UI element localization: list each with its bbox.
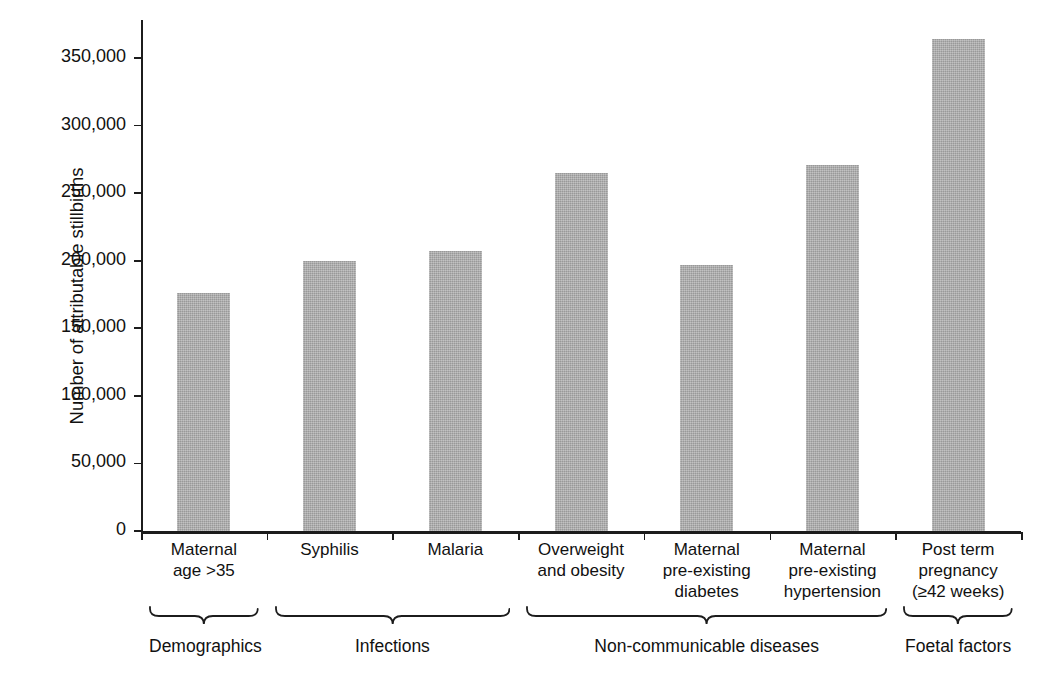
bar xyxy=(429,251,482,531)
category-label-line: Syphilis xyxy=(267,539,393,560)
y-axis-tick-mark xyxy=(134,192,141,194)
y-axis-tick-label: 250,000 xyxy=(13,181,126,202)
x-axis-category-label: Maternalpre-existingdiabetes xyxy=(644,539,770,602)
x-axis-tick-mark xyxy=(1021,532,1023,540)
category-label-line: Maternal xyxy=(770,539,896,560)
bar xyxy=(932,39,985,531)
y-axis-tick-mark xyxy=(134,463,141,465)
category-label-line: Maternal xyxy=(644,539,770,560)
x-axis-category-label: Maternalage >35 xyxy=(141,539,267,581)
category-label-line: Post term xyxy=(895,539,1021,560)
bar-chart-figure: Number of attributable stillbirths 050,0… xyxy=(0,0,1045,693)
x-axis-line xyxy=(141,531,1021,534)
group-label: Foetal factors xyxy=(903,636,1013,657)
y-axis-tick-label: 350,000 xyxy=(13,46,126,67)
category-label-line: (≥42 weeks) xyxy=(895,581,1021,602)
group-brace xyxy=(903,606,1013,628)
y-axis-tick-label: 150,000 xyxy=(13,316,126,337)
group-label: Demographics xyxy=(149,636,259,657)
group-brace xyxy=(149,606,259,628)
x-axis-category-label: Syphilis xyxy=(267,539,393,560)
y-axis-line xyxy=(141,20,143,533)
category-label-line: Overweight xyxy=(518,539,644,560)
category-label-line: pre-existing xyxy=(644,560,770,581)
group-label: Non-communicable diseases xyxy=(526,636,887,657)
x-axis-category-label: Maternalpre-existinghypertension xyxy=(770,539,896,602)
y-axis-title: Number of attributable stillbirths xyxy=(66,86,88,506)
bar xyxy=(806,165,859,531)
category-label-line: pregnancy xyxy=(895,560,1021,581)
y-axis-tick-mark xyxy=(134,395,141,397)
y-axis-tick-label: 0 xyxy=(13,519,126,540)
group-label: Infections xyxy=(275,636,510,657)
bar xyxy=(680,265,733,531)
category-label-line: Malaria xyxy=(392,539,518,560)
group-brace xyxy=(526,606,887,628)
category-label-line: diabetes xyxy=(644,581,770,602)
category-label-line: hypertension xyxy=(770,581,896,602)
category-label-line: Maternal xyxy=(141,539,267,560)
group-brace xyxy=(275,606,510,628)
y-axis-tick-label: 300,000 xyxy=(13,114,126,135)
x-axis-category-label: Post termpregnancy(≥42 weeks) xyxy=(895,539,1021,602)
y-axis-tick-mark xyxy=(134,327,141,329)
y-axis-tick-label: 100,000 xyxy=(13,384,126,405)
category-label-line: pre-existing xyxy=(770,560,896,581)
category-label-line: age >35 xyxy=(141,560,267,581)
x-axis-category-label: Overweightand obesity xyxy=(518,539,644,581)
bar xyxy=(303,261,356,531)
y-axis-tick-label: 50,000 xyxy=(13,451,126,472)
x-axis-category-label: Malaria xyxy=(392,539,518,560)
y-axis-tick-mark xyxy=(134,530,141,532)
bar xyxy=(555,173,608,531)
y-axis-tick-mark xyxy=(134,260,141,262)
bar xyxy=(177,293,230,531)
plot-area: 050,000100,000150,000200,000250,000300,0… xyxy=(141,20,1021,533)
y-axis-tick-mark xyxy=(134,125,141,127)
y-axis-tick-mark xyxy=(134,57,141,59)
y-axis-tick-label: 200,000 xyxy=(13,249,126,270)
category-label-line: and obesity xyxy=(518,560,644,581)
